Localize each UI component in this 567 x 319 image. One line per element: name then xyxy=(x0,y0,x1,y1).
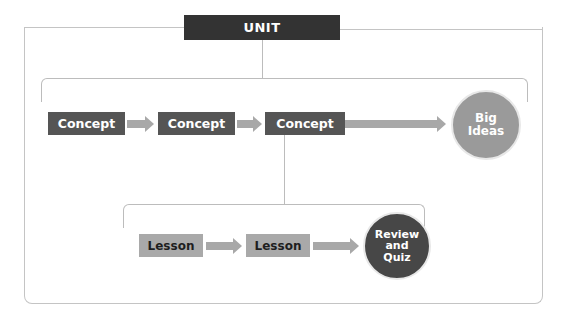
arrow-right-icon xyxy=(206,238,242,254)
concept-label: Concept xyxy=(168,116,225,131)
concept-box-2: Concept xyxy=(158,112,235,135)
lesson-box-1: Lesson xyxy=(139,234,203,257)
big-ideas-circle: Big Ideas xyxy=(451,90,521,160)
lesson-box-2: Lesson xyxy=(246,234,310,257)
frame-top-left-line xyxy=(24,27,184,28)
arrow-right-icon xyxy=(313,238,359,254)
big-ideas-label-line2: Ideas xyxy=(468,125,504,138)
concept-box-1: Concept xyxy=(48,112,125,135)
concept-connector-line xyxy=(284,135,285,204)
unit-label: UNIT xyxy=(243,20,280,35)
concept-label: Concept xyxy=(58,116,115,131)
arrow-right-icon xyxy=(345,116,446,132)
concept-label: Concept xyxy=(276,116,333,131)
review-label-line3: Quiz xyxy=(375,252,420,264)
arrow-right-icon xyxy=(237,116,262,132)
frame-top-right-line xyxy=(340,29,543,30)
lesson-label: Lesson xyxy=(255,239,302,253)
review-quiz-circle: Review and Quiz xyxy=(363,212,431,280)
concepts-bracket xyxy=(41,78,528,102)
concept-box-3: Concept xyxy=(265,112,345,135)
lesson-label: Lesson xyxy=(148,239,195,253)
unit-connector-line xyxy=(262,40,263,78)
unit-header: UNIT xyxy=(184,15,340,40)
arrow-right-icon xyxy=(127,116,154,132)
